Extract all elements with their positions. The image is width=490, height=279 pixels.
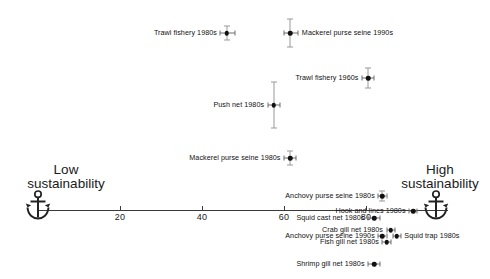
data-point-marker[interactable] [366, 76, 371, 81]
data-point-marker[interactable] [272, 103, 277, 108]
data-point-label: Trawl fishery 1980s [154, 29, 217, 37]
vertical-error-bar-cap [287, 19, 293, 20]
vertical-error-bar-cap [379, 201, 385, 202]
data-point-marker[interactable] [224, 31, 229, 36]
x-axis-tick-label: 20 [115, 212, 125, 222]
low-pole-line2: sustainability [27, 176, 104, 191]
data-point-marker[interactable] [411, 209, 416, 214]
horizontal-error-bar-cap [284, 31, 285, 36]
horizontal-error-bar-cap [392, 234, 393, 239]
vertical-error-bar-cap [224, 40, 230, 41]
vertical-error-bar-cap [379, 191, 385, 192]
data-point-marker[interactable] [288, 31, 293, 36]
vertical-error-bar-cap [287, 47, 293, 48]
x-axis-tick-mark [284, 206, 285, 210]
horizontal-error-bar-cap [380, 262, 381, 267]
horizontal-error-bar-cap [382, 240, 383, 245]
x-axis-tick-mark [120, 206, 121, 210]
horizontal-error-bar-cap [368, 262, 369, 267]
low-pole-line1: Low [54, 162, 79, 177]
vertical-error-bar-cap [271, 82, 277, 83]
vertical-error-bar-cap [365, 68, 371, 69]
horizontal-error-bar-cap [409, 209, 410, 214]
horizontal-error-bar-cap [368, 216, 369, 221]
high-pole-line1: High [426, 162, 454, 177]
horizontal-error-bar-cap [284, 156, 285, 161]
low-sustainability-label: Low sustainability [16, 163, 116, 191]
anchor-icon-high [423, 190, 449, 220]
vertical-error-bar-cap [224, 26, 230, 27]
high-pole-line2: sustainability [401, 176, 478, 191]
data-point-label: Squid cast net 1980s [296, 214, 364, 222]
horizontal-error-bar-cap [386, 234, 387, 239]
data-point-label: Anchovy purse seine 1980s [285, 192, 375, 200]
data-point-marker[interactable] [288, 156, 293, 161]
horizontal-error-bar-cap [374, 76, 375, 81]
horizontal-error-bar-cap [390, 240, 391, 245]
data-point-marker[interactable] [388, 228, 393, 233]
data-point-label: Squid trap 1980s [404, 232, 459, 240]
x-axis-tick-label: 40 [197, 212, 207, 222]
data-point-marker[interactable] [380, 234, 385, 239]
vertical-error-bar-cap [287, 151, 293, 152]
horizontal-error-bar-cap [361, 76, 362, 81]
sustainability-scatter-chart: 20406080 Low sustainability High sustain… [0, 0, 490, 279]
horizontal-error-bar-cap [378, 194, 379, 199]
data-point-marker[interactable] [395, 234, 400, 239]
anchor-icon-low [25, 190, 51, 220]
horizontal-error-bar-cap [386, 194, 387, 199]
data-point-label: Push net 1980s [213, 101, 264, 109]
data-point-marker[interactable] [380, 194, 385, 199]
horizontal-error-bar-cap [394, 228, 395, 233]
data-point-label: Mackerel purse seine 1980s [189, 154, 280, 162]
data-point-label: Trawl fishery 1960s [295, 74, 358, 82]
horizontal-error-bar-cap [279, 103, 280, 108]
horizontal-error-bar-cap [220, 31, 221, 36]
data-point-label: Shrimp gill net 1980s [296, 260, 364, 268]
data-point-label: Fish gill net 1980s [320, 238, 379, 246]
horizontal-error-bar-cap [296, 156, 297, 161]
horizontal-error-bar-cap [400, 234, 401, 239]
vertical-error-bar-cap [287, 165, 293, 166]
data-point-marker[interactable] [384, 240, 389, 245]
high-sustainability-label: High sustainability [392, 163, 488, 191]
data-point-marker[interactable] [372, 262, 377, 267]
vertical-error-bar-cap [271, 128, 277, 129]
horizontal-error-bar-cap [298, 31, 299, 36]
data-point-label: Mackerel purse seine 1990s [302, 29, 393, 37]
x-axis-tick-label: 60 [279, 212, 289, 222]
vertical-error-bar-cap [365, 88, 371, 89]
data-point-marker[interactable] [372, 216, 377, 221]
horizontal-error-bar-cap [267, 103, 268, 108]
horizontal-error-bar-cap [417, 209, 418, 214]
horizontal-error-bar-cap [234, 31, 235, 36]
x-axis-tick-mark [202, 206, 203, 210]
horizontal-error-bar-cap [380, 216, 381, 221]
horizontal-error-bar-cap [386, 228, 387, 233]
